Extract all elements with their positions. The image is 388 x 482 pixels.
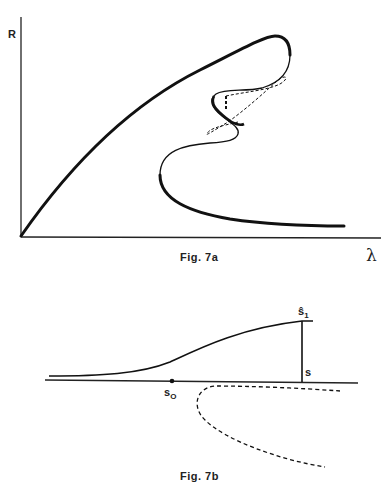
lower-branch-curve (160, 175, 344, 226)
s-loop-curve (160, 55, 290, 175)
figure-7b: sO s ŝ1 Fig. 7b (0, 290, 388, 476)
figure-7a: R λ Fig. 7a (0, 0, 388, 290)
lambda-axis (21, 237, 381, 238)
x-axis-label: λ (366, 245, 377, 265)
s0-point (170, 379, 175, 384)
caption-7b: Fig. 7b (180, 470, 219, 482)
s-loop-thick-segment (213, 96, 244, 125)
s1-label: ŝ1 (298, 305, 309, 320)
main-branch-curve (21, 36, 290, 236)
y-axis-label: R (8, 28, 16, 40)
lower-fold-dashed-curve (197, 386, 340, 467)
horizontal-axis (45, 380, 358, 383)
isola-dashed-curve (207, 77, 286, 134)
caption-7a: Fig. 7a (180, 251, 218, 263)
diagram-7b (0, 290, 388, 476)
upper-sigmoid-curve (49, 321, 313, 376)
s0-label: sO (164, 386, 176, 401)
bifurcation-diagram-7a (0, 0, 388, 290)
s-label: s (305, 366, 311, 378)
